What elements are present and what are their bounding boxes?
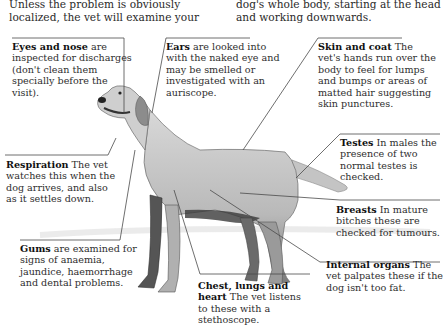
callout-testes: Testes In males the presence of two norm… [340,137,440,183]
callout-title: Internal organs [326,259,410,270]
callout-chest-lungs-heart: Chest, lungs and heart The vet listens t… [198,280,310,326]
callout-title: Skin and coat [318,41,392,52]
callout-title: Ears [166,41,190,52]
callout-ears: Ears are looked into with the naked eye … [166,41,281,98]
callout-internal-organs: Internal organs The vet palpates these i… [326,259,443,293]
callout-respiration: Respiration The vet watches this when th… [6,159,118,205]
callout-breasts: Breasts In mature bitches these are chec… [336,204,443,238]
callout-gums: Gums are examined for signs of anaemia, … [20,243,138,289]
callout-title: Gums [20,243,51,254]
callout-title: Respiration [6,159,69,170]
callout-skin-coat: Skin and coat The vet's hands run over t… [318,41,438,109]
callout-title: Eyes and nose [12,41,88,52]
callout-eyes-nose: Eyes and nose are inspected for discharg… [12,41,132,98]
callout-title: Breasts [336,204,377,215]
callout-title: Testes [340,137,373,148]
